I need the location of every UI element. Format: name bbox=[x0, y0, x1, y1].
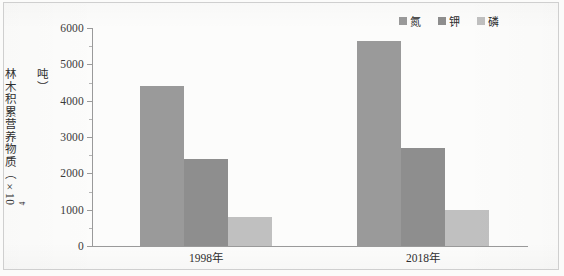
x-category-label-1: 2018年 bbox=[406, 249, 440, 265]
bar-1998年-钾 bbox=[184, 159, 228, 246]
legend-label-0: 氮 bbox=[410, 13, 421, 29]
y-minor-tick-500 bbox=[89, 228, 92, 229]
bar-1998年-氮 bbox=[140, 86, 184, 246]
x-axis-line bbox=[92, 246, 528, 247]
y-tick-label-6000: 6000 bbox=[60, 22, 84, 34]
y-tick-1000 bbox=[87, 210, 92, 211]
legend-swatch-icon-0 bbox=[399, 17, 407, 25]
legend-label-1: 钾 bbox=[449, 13, 460, 29]
chart-page: 氮 钾 磷 林木积累营养物质（×104吨） 010002000300040005… bbox=[0, 0, 564, 276]
y-axis-line bbox=[92, 28, 93, 246]
y-minor-tick-5500 bbox=[89, 46, 92, 47]
y-axis-title: 林木积累营养物质（×104吨） bbox=[18, 28, 34, 246]
y-axis-title-suffix: 吨） bbox=[34, 68, 50, 206]
y-tick-5000 bbox=[87, 64, 92, 65]
chart-legend: 氮 钾 磷 bbox=[399, 13, 499, 29]
y-tick-2000 bbox=[87, 173, 92, 174]
y-axis-title-exponent: 4 bbox=[18, 202, 27, 206]
bar-2018年-钾 bbox=[401, 148, 445, 246]
bar-2018年-磷 bbox=[445, 210, 489, 246]
chart-frame: 氮 钾 磷 林木积累营养物质（×104吨） 010002000300040005… bbox=[3, 2, 559, 270]
bar-2018年-氮 bbox=[357, 41, 401, 246]
legend-swatch-icon-2 bbox=[477, 17, 485, 25]
legend-swatch-icon-1 bbox=[438, 17, 446, 25]
y-tick-label-0: 0 bbox=[78, 240, 84, 252]
plot-area: 0100020003000400050006000 bbox=[92, 28, 528, 246]
y-tick-label-1000: 1000 bbox=[60, 204, 84, 216]
y-tick-label-2000: 2000 bbox=[60, 167, 84, 179]
legend-item-2: 磷 bbox=[477, 13, 499, 29]
y-minor-tick-3500 bbox=[89, 119, 92, 120]
y-minor-tick-2500 bbox=[89, 155, 92, 156]
y-tick-label-3000: 3000 bbox=[60, 131, 84, 143]
legend-label-2: 磷 bbox=[488, 13, 499, 29]
legend-item-1: 钾 bbox=[438, 13, 460, 29]
y-tick-label-4000: 4000 bbox=[60, 95, 84, 107]
y-tick-6000 bbox=[87, 28, 92, 29]
y-axis-title-prefix: 林木积累营养物质（×10 bbox=[2, 68, 18, 206]
legend-item-0: 氮 bbox=[399, 13, 421, 29]
y-tick-3000 bbox=[87, 137, 92, 138]
bar-1998年-磷 bbox=[228, 217, 272, 246]
y-tick-label-5000: 5000 bbox=[60, 58, 84, 70]
x-category-label-0: 1998年 bbox=[189, 249, 223, 265]
y-minor-tick-4500 bbox=[89, 83, 92, 84]
y-tick-0 bbox=[87, 246, 92, 247]
y-tick-4000 bbox=[87, 101, 92, 102]
y-axis-title-text: 林木积累营养物质（×104吨） bbox=[2, 68, 50, 206]
y-minor-tick-1500 bbox=[89, 192, 92, 193]
